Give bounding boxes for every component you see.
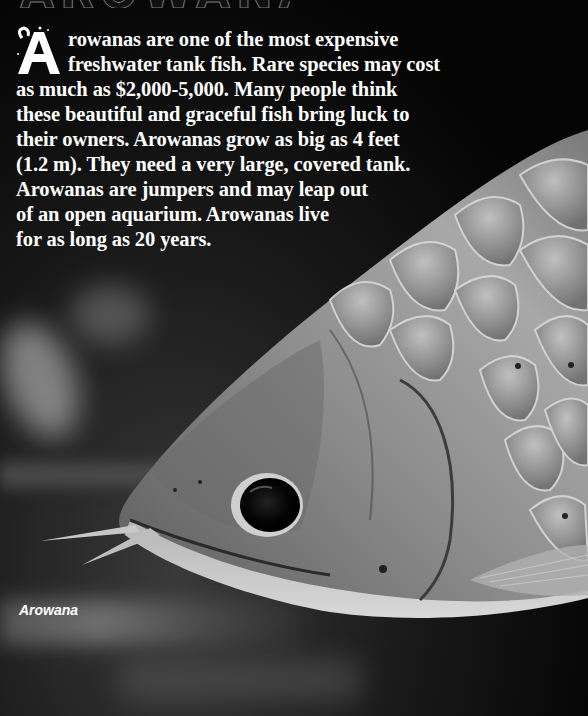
body-line: their owners. Arowanas grow as big as 4 …	[16, 127, 486, 152]
body-line: freshwater tank fish. Rare species may c…	[16, 52, 486, 77]
photo-caption: Arowana	[19, 602, 78, 618]
body-line: for as long as 20 years.	[16, 227, 486, 252]
body-line: of an open aquarium. Arowanas live	[16, 202, 486, 227]
body-line: rowanas are one of the most expensive	[16, 27, 486, 52]
body-line: Arowanas are jumpers and may leap out	[16, 177, 486, 202]
body-paragraph: rowanas are one of the most expensive fr…	[16, 27, 486, 252]
body-line: these beautiful and graceful fish bring …	[16, 102, 486, 127]
body-line: as much as $2,000-5,000. Many people thi…	[16, 77, 486, 102]
body-line: (1.2 m). They need a very large, covered…	[16, 152, 486, 177]
book-page: AROWANAS	[0, 0, 588, 716]
